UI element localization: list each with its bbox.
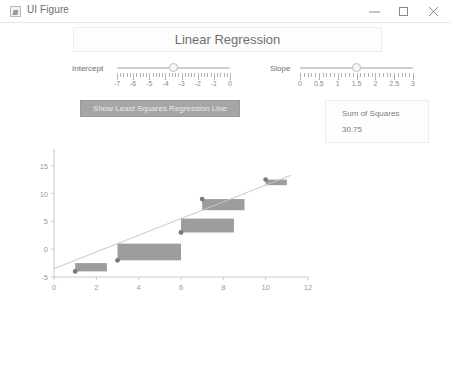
title-bar: UI Figure <box>0 0 451 23</box>
intercept-slider-thumb[interactable] <box>169 63 178 72</box>
x-tick-label: 12 <box>304 283 312 292</box>
tick-label: -7 <box>114 80 120 87</box>
tick-minor <box>334 73 335 77</box>
tick-minor <box>398 73 399 77</box>
tick-minor <box>326 73 327 77</box>
tick-minor <box>130 73 131 77</box>
tick-minor <box>123 73 124 77</box>
tick-minor <box>201 73 202 77</box>
slope-slider-thumb[interactable] <box>352 63 361 72</box>
y-tick-label: 15 <box>40 162 48 171</box>
regression-plot: -5051015024681012 <box>22 143 312 301</box>
tick-minor <box>172 73 173 77</box>
tick-major <box>230 73 231 80</box>
matlab-figure-icon <box>10 6 21 17</box>
tick-minor <box>224 73 225 77</box>
tick-minor <box>349 73 350 77</box>
tick-label: -1 <box>211 80 217 87</box>
tick-major <box>375 73 376 80</box>
tick-major <box>394 73 395 80</box>
intercept-slider[interactable]: -7-6-5-4-3-2-10 <box>117 62 230 92</box>
tick-minor <box>323 73 324 77</box>
tick-label: -4 <box>162 80 168 87</box>
sum-of-squares-value: 30.75 <box>342 125 362 134</box>
slope-tick-labels: 00.511.522.53 <box>300 80 413 90</box>
tick-label: -6 <box>130 80 136 87</box>
tick-minor <box>146 73 147 77</box>
tick-major <box>319 73 320 80</box>
data-point[interactable] <box>179 230 184 235</box>
data-point[interactable] <box>115 258 120 263</box>
tick-major <box>198 73 199 80</box>
tick-minor <box>140 73 141 77</box>
data-point[interactable] <box>263 177 268 182</box>
tick-minor <box>227 73 228 77</box>
tick-minor <box>217 73 218 77</box>
tick-minor <box>364 73 365 77</box>
tick-minor <box>136 73 137 77</box>
tick-major <box>165 73 166 80</box>
tick-label: 0 <box>228 80 232 87</box>
sum-of-squares-panel: Sum of Squares 30.75 <box>325 100 429 143</box>
tick-minor <box>204 73 205 77</box>
tick-minor <box>345 73 346 77</box>
slope-label: Slope <box>270 64 290 73</box>
tick-minor <box>308 73 309 77</box>
tick-major <box>133 73 134 80</box>
tick-minor <box>383 73 384 77</box>
tick-minor <box>368 73 369 77</box>
residual-square <box>75 263 107 271</box>
tick-label: 1 <box>336 80 340 87</box>
tick-minor <box>194 73 195 77</box>
tick-minor <box>330 73 331 77</box>
slope-slider[interactable]: 00.511.522.53 <box>300 62 413 92</box>
tick-label: 2 <box>373 80 377 87</box>
tick-minor <box>127 73 128 77</box>
tick-minor <box>390 73 391 77</box>
tick-minor <box>379 73 380 77</box>
tick-minor <box>162 73 163 77</box>
tick-minor <box>341 73 342 77</box>
close-icon[interactable] <box>419 0 449 22</box>
tick-label: 1.5 <box>352 80 362 87</box>
tick-minor <box>120 73 121 77</box>
data-point[interactable] <box>200 197 205 202</box>
tick-minor <box>178 73 179 77</box>
tick-major <box>214 73 215 80</box>
x-tick-label: 0 <box>52 283 56 292</box>
x-tick-label: 8 <box>221 283 225 292</box>
intercept-label: Intercept <box>72 64 103 73</box>
tick-minor <box>156 73 157 77</box>
tick-minor <box>220 73 221 77</box>
ui-figure-window: UI Figure Linear Regression Intercept -7… <box>0 0 451 366</box>
tick-major <box>413 73 414 80</box>
tick-label: -2 <box>195 80 201 87</box>
tick-label: 0.5 <box>314 80 324 87</box>
tick-major <box>182 73 183 80</box>
page-title: Linear Regression <box>74 32 381 47</box>
header-panel: Linear Regression <box>73 27 382 52</box>
y-tick-label: 10 <box>40 190 48 199</box>
intercept-tick-marks <box>117 73 230 80</box>
tick-minor <box>387 73 388 77</box>
tick-label: 3 <box>411 80 415 87</box>
x-tick-label: 4 <box>137 283 141 292</box>
tick-label: 2.5 <box>389 80 399 87</box>
sum-of-squares-label: Sum of Squares <box>342 109 399 118</box>
data-point[interactable] <box>73 269 78 274</box>
maximize-icon[interactable] <box>389 0 419 22</box>
tick-minor <box>159 73 160 77</box>
minimize-icon[interactable] <box>359 0 389 22</box>
show-least-squares-line-button[interactable]: Show Least Squares Regression Line <box>80 100 240 117</box>
slope-tick-marks <box>300 73 413 80</box>
tick-minor <box>175 73 176 77</box>
y-tick-label: -5 <box>41 273 48 282</box>
tick-minor <box>315 73 316 77</box>
window-title: UI Figure <box>27 4 69 15</box>
x-tick-label: 6 <box>179 283 183 292</box>
residual-square <box>118 244 182 261</box>
tick-minor <box>188 73 189 77</box>
tick-label: -5 <box>146 80 152 87</box>
x-tick-label: 2 <box>94 283 98 292</box>
tick-minor <box>311 73 312 77</box>
